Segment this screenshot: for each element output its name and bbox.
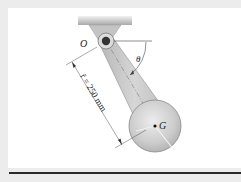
pivot-label: O xyxy=(80,38,87,49)
pivot-pin xyxy=(98,33,114,49)
pendulum-diagram: O θ G r̄ = 250 mm xyxy=(0,0,241,182)
bottom-rule xyxy=(9,172,241,174)
angle-label: θ xyxy=(136,54,141,64)
center-label: G xyxy=(159,120,166,131)
center-of-mass-dot xyxy=(153,124,156,127)
dimension-label: r̄ = 250 mm xyxy=(78,72,108,113)
